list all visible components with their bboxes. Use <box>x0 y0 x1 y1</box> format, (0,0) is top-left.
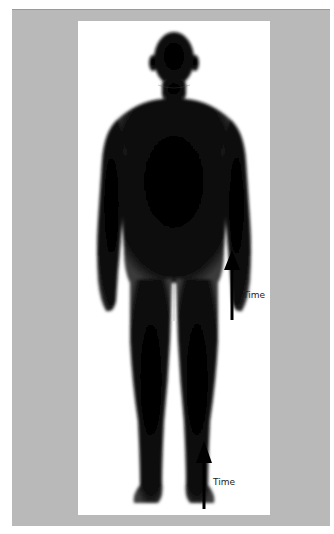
time-label-lower: Time <box>213 477 235 487</box>
time-arrow-upper <box>224 250 240 320</box>
time-arrow-lower <box>196 441 212 511</box>
time-label-upper: Time <box>243 290 265 300</box>
human-silhouette <box>78 21 270 515</box>
